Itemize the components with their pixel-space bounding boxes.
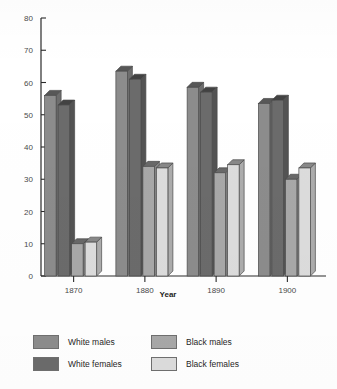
bar-chart: 01020304050607080 1870188018901900 Year … [0, 0, 337, 389]
bar-front-face [72, 244, 84, 276]
bar-front-face [187, 87, 199, 276]
y-tick-label: 0 [29, 272, 34, 281]
bar-1890-black-females [228, 160, 245, 276]
y-tick-label: 20 [24, 208, 33, 217]
chart-legend: White males Black males White females Bl… [33, 331, 323, 383]
bar-front-face [201, 92, 213, 276]
legend-label-black-females: Black females [186, 359, 239, 369]
chart-canvas: 01020304050607080 1870188018901900 Year [0, 0, 337, 300]
bar-side-face [168, 163, 173, 276]
bar-front-face [129, 79, 141, 276]
bars-layer [45, 66, 316, 276]
y-tick-label: 50 [24, 111, 33, 120]
legend-swatch-black-males [151, 335, 177, 349]
y-tick-label: 40 [24, 143, 33, 152]
legend-swatch-black-females [151, 357, 177, 371]
bar-front-face [228, 165, 240, 276]
y-tick-label: 60 [24, 79, 33, 88]
legend-swatch-white-females [33, 357, 59, 371]
bar-side-face [310, 163, 315, 276]
y-tick-label: 30 [24, 175, 33, 184]
y-tick-label: 10 [24, 240, 33, 249]
y-tick-label: 70 [24, 46, 33, 55]
bar-front-face [116, 71, 128, 276]
bar-front-face [214, 173, 226, 276]
x-tick-label: 1880 [136, 286, 154, 295]
legend-entry-white-females: White females [33, 357, 151, 371]
bar-front-face [85, 242, 97, 276]
x-tick-label: 1900 [278, 286, 296, 295]
x-axis-labels: 1870188018901900 [65, 276, 297, 295]
x-axis-title: Year [160, 290, 177, 299]
legend-label-white-males: White males [68, 337, 115, 347]
legend-entry-white-males: White males [33, 335, 151, 349]
bar-front-face [156, 168, 168, 276]
bar-1870-black-females [85, 237, 102, 276]
legend-label-black-males: Black males [186, 337, 232, 347]
bar-side-face [97, 237, 102, 276]
legend-entry-black-males: Black males [151, 335, 232, 349]
bar-front-face [143, 166, 155, 276]
x-tick-label: 1890 [207, 286, 225, 295]
bar-1880-black-females [156, 163, 173, 276]
legend-label-white-females: White females [68, 359, 122, 369]
plot-area: 01020304050607080 1870188018901900 Year [0, 0, 337, 300]
legend-swatch-white-males [33, 335, 59, 349]
bar-front-face [285, 179, 297, 276]
bar-front-face [258, 103, 270, 276]
bar-side-face [239, 160, 244, 276]
bar-front-face [45, 95, 57, 276]
legend-row-2: White females Black females [33, 353, 323, 375]
bar-front-face [272, 100, 284, 276]
bar-1900-black-females [299, 163, 316, 276]
y-tick-label: 80 [24, 14, 33, 23]
legend-entry-black-females: Black females [151, 357, 239, 371]
bar-front-face [299, 168, 311, 276]
x-tick-label: 1870 [65, 286, 83, 295]
bar-front-face [58, 105, 70, 276]
legend-row-1: White males Black males [33, 331, 323, 353]
